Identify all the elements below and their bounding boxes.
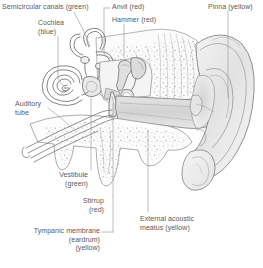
label-vestibule: Vestibule (green) [40, 171, 88, 188]
label-stirrup-line2: (red) [62, 206, 104, 215]
label-cochlea-line2: (blue) [38, 28, 64, 37]
label-stirrup: Stirrup (red) [62, 197, 104, 214]
label-tympanic-line2: (eardrum) [8, 236, 100, 245]
label-hammer: Hammer (red) [112, 16, 156, 25]
leader-semicircular-canals [74, 12, 90, 46]
label-cochlea: Cochlea (blue) [38, 19, 64, 36]
label-auditory-line1: Auditory [15, 100, 41, 109]
label-tympanic-membrane: Tympanic membrane (eardrum) (yellow) [8, 227, 100, 253]
cochlea [42, 66, 88, 106]
label-stirrup-line1: Stirrup [62, 197, 104, 206]
label-vestibule-line1: Vestibule [40, 171, 88, 180]
label-vestibule-line2: (green) [40, 180, 88, 189]
label-meatus-line1: External acoustic [140, 215, 218, 224]
label-tympanic-line3: (yellow) [8, 244, 100, 253]
label-auditory-tube: Auditory tube [15, 100, 41, 117]
label-meatus-line2: meatus (yellow) [140, 224, 218, 233]
label-anvil: Anvil (red) [112, 3, 144, 12]
leader-cochlea [58, 36, 64, 86]
label-pinna: Pinna (yellow) [208, 3, 253, 12]
ear-anatomy-figure: Semicircular canals (green) Cochlea (blu… [0, 0, 263, 268]
label-auditory-line2: tube [15, 109, 41, 118]
label-external-acoustic-meatus: External acoustic meatus (yellow) [140, 215, 218, 232]
label-tympanic-line1: Tympanic membrane [8, 227, 100, 236]
label-cochlea-line1: Cochlea [38, 19, 64, 28]
label-semicircular-canals: Semicircular canals (green) [2, 3, 89, 12]
